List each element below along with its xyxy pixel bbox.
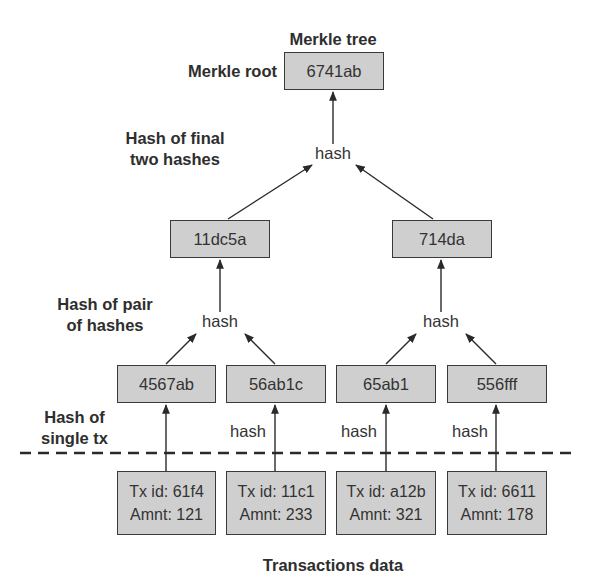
tx-amount: Amnt: 233 [240,503,313,526]
hash-label-pair-left: hash [202,312,238,331]
leaf-hash-box: 56ab1c [226,365,326,403]
annotation-pair-line-1: Hash of pair [45,294,165,315]
annotation-single-line-1: Hash of [32,407,117,428]
merkle-root-value: 6741ab [306,62,361,81]
merkle-root-label: Merkle root [107,61,277,82]
level2-value: 11dc5a [194,230,247,249]
annotation-final-hash: Hash of final two hashes [110,128,240,170]
annotation-final-line-1: Hash of final [110,128,240,149]
hash-label-leaf-2: hash [230,422,266,441]
annotation-final-line-2: two hashes [110,149,240,170]
level2-box-left: 11dc5a [170,220,270,258]
annotation-single-line-2: single tx [32,428,117,449]
leaf-hash-box: 556fff [447,365,547,403]
merkle-tree-diagram: Merkle tree Merkle root 6741ab hash Hash… [0,0,591,578]
annotation-single-tx: Hash of single tx [32,407,117,449]
leaf-hash-value: 65ab1 [363,375,409,394]
tx-amount: Amnt: 121 [130,503,203,526]
hash-label-leaf-3: hash [341,422,377,441]
transaction-box: Tx id: 11c1 Amnt: 233 [226,471,326,535]
tx-id: Tx id: 61f4 [129,480,204,503]
annotation-pair-hash: Hash of pair of hashes [45,294,165,336]
tx-amount: Amnt: 321 [350,503,423,526]
leaf-hash-box: 65ab1 [336,365,436,403]
hash-label-pair-right: hash [423,312,459,331]
merkle-root-box: 6741ab [284,52,384,90]
leaf-hash-value: 4567ab [139,375,194,394]
hash-label-leaf-4: hash [452,422,488,441]
annotation-pair-line-2: of hashes [45,315,165,336]
hash-label-root: hash [315,144,351,163]
transaction-box: Tx id: 61f4 Amnt: 121 [117,471,216,535]
level2-box-right: 714da [392,220,492,258]
tx-id: Tx id: 11c1 [237,480,314,503]
tx-amount: Amnt: 178 [461,503,534,526]
leaf-hash-value: 556fff [477,375,518,394]
level2-value: 714da [419,230,465,249]
transaction-box: Tx id: 6611 Amnt: 178 [447,471,547,535]
diagram-title: Merkle tree [283,29,383,50]
transaction-box: Tx id: a12b Amnt: 321 [336,471,436,535]
leaf-hash-box: 4567ab [117,365,216,403]
tx-id: Tx id: 6611 [458,480,536,503]
tx-id: Tx id: a12b [346,480,425,503]
leaf-hash-value: 56ab1c [249,375,303,394]
transactions-data-label: Transactions data [233,555,433,576]
